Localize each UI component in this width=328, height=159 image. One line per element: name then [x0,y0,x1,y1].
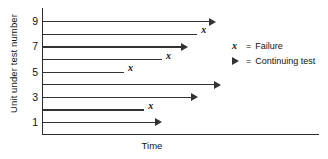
legend-label-failure: Failure [255,41,283,51]
y-tick-3: 3 [22,92,38,93]
run-line [43,72,124,73]
run-line [43,34,197,35]
test-timeline-chart: Unit under test number 97531 xxxx x = Fa… [0,0,328,159]
right-arrow-marker-icon [232,57,245,65]
run-line [43,109,144,110]
italic-x-marker-icon: x [232,40,245,51]
y-tick-9: 9 [22,16,38,17]
y-tick-label: 1 [24,117,38,128]
y-tick-1: 1 [22,117,38,118]
y-tick-label: 5 [24,67,38,78]
continuing-test-arrow-icon [155,118,162,126]
run-line [43,46,181,47]
legend-equals: = [245,56,255,66]
failure-x-marker-icon: x [148,101,153,111]
legend-equals: = [245,41,255,51]
failure-x-marker-icon: x [128,63,133,73]
y-axis-title: Unit under test number [8,0,19,129]
failure-x-marker-icon: x [166,51,171,61]
run-line [43,84,214,85]
legend-item-continuing: = Continuing test [232,53,315,68]
continuing-test-arrow-icon [214,81,221,89]
failure-x-marker-icon: x [201,25,206,35]
run-line [43,21,209,22]
y-tick-label: 9 [24,16,38,27]
x-axis-title: Time [42,140,262,151]
y-tick-5: 5 [22,67,38,68]
y-tick-label: 3 [24,92,38,103]
continuing-test-arrow-icon [209,18,216,26]
legend-label-continuing: Continuing test [255,56,315,66]
y-tick-label: 7 [24,41,38,52]
y-tick-7: 7 [22,41,38,42]
legend-item-failure: x = Failure [232,38,315,53]
run-line [43,97,191,98]
continuing-test-arrow-icon [191,93,198,101]
x-axis-line [42,134,319,135]
run-line [43,59,162,60]
run-line [43,122,156,123]
continuing-test-arrow-icon [181,43,188,51]
chart-legend: x = Failure = Continuing test [232,38,315,68]
